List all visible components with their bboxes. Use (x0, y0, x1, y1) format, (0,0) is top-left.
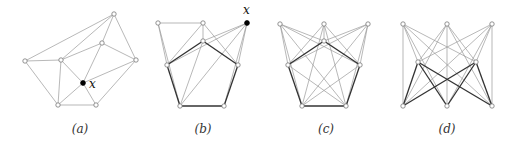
edge (418, 62, 492, 106)
edge (280, 24, 288, 65)
edge (476, 62, 492, 106)
edge (114, 14, 136, 60)
edge (61, 60, 83, 83)
caption-a: (a) (72, 122, 89, 136)
edge (25, 61, 58, 105)
caption-d: (d) (438, 122, 455, 136)
edge (403, 62, 476, 106)
edge (58, 60, 61, 105)
edge (203, 41, 238, 65)
edge (224, 65, 238, 106)
panel-b-graph (156, 21, 250, 109)
vertex (344, 104, 348, 108)
panel-b-x-label: x (243, 3, 250, 17)
vertex (156, 21, 160, 25)
edge (418, 62, 447, 106)
vertex (236, 63, 240, 67)
edge (167, 65, 180, 106)
caption-c: (c) (318, 122, 334, 136)
vertex (201, 39, 205, 43)
vertex (165, 63, 169, 67)
edge (102, 14, 114, 43)
vertex (278, 22, 282, 26)
vertex (201, 21, 205, 25)
edge (346, 65, 360, 106)
vertex (401, 22, 405, 26)
edge (288, 65, 302, 106)
edge (476, 24, 492, 62)
vertex (100, 41, 104, 45)
caption-b: (b) (194, 122, 211, 136)
edge (25, 60, 61, 61)
panel-c-graph (278, 22, 370, 108)
edge (25, 14, 114, 61)
vertex (222, 104, 226, 108)
edge (203, 23, 247, 41)
vertex (445, 22, 449, 26)
edge (102, 43, 136, 60)
vertex (445, 104, 449, 108)
vertex (286, 63, 290, 67)
vertex (358, 63, 362, 67)
panel-d-graph (401, 22, 494, 108)
vertex-x (81, 81, 86, 86)
vertex (322, 39, 326, 43)
vertex (366, 22, 370, 26)
vertex-x (245, 21, 250, 26)
vertex (474, 60, 478, 64)
edge (58, 83, 83, 105)
edge (360, 24, 368, 65)
edge (61, 14, 114, 60)
vertex (416, 60, 420, 64)
edge (403, 24, 418, 62)
vertex (56, 103, 60, 107)
edge (288, 24, 368, 65)
vertex (94, 103, 98, 107)
vertex (59, 58, 63, 62)
edge (96, 60, 136, 105)
vertex (322, 22, 326, 26)
edge (346, 24, 368, 106)
edge (418, 24, 492, 62)
panel-a-graph (23, 12, 138, 107)
vertex (112, 12, 116, 16)
vertex (134, 58, 138, 62)
edge (280, 24, 360, 65)
vertex (23, 59, 27, 63)
edge (418, 24, 447, 62)
vertex (401, 104, 405, 108)
edge (61, 43, 102, 60)
edge (180, 41, 203, 106)
vertex (300, 104, 304, 108)
edge (167, 41, 203, 65)
vertex (490, 22, 494, 26)
edge (280, 24, 302, 106)
vertex (490, 104, 494, 108)
panel-a-x-label: x (89, 77, 96, 91)
vertex (178, 104, 182, 108)
edge (238, 23, 247, 65)
